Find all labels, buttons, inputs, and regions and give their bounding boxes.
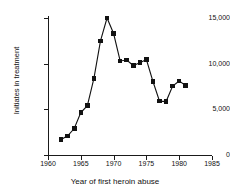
data-point-marker bbox=[124, 58, 129, 63]
data-point-marker bbox=[59, 137, 64, 142]
data-point-marker bbox=[65, 134, 70, 139]
data-point-marker bbox=[164, 99, 169, 104]
data-point-marker bbox=[177, 79, 182, 84]
data-point-marker bbox=[183, 83, 188, 88]
data-point-marker bbox=[111, 31, 116, 36]
data-point-marker bbox=[92, 76, 97, 81]
data-point-marker bbox=[85, 103, 90, 108]
series-line bbox=[0, 0, 230, 194]
data-point-marker bbox=[157, 99, 162, 104]
data-point-marker bbox=[72, 126, 77, 131]
chart-figure: 05,00010,00015,000 196019651970197519801… bbox=[0, 0, 230, 194]
data-point-marker bbox=[118, 59, 123, 64]
data-point-marker bbox=[170, 84, 175, 89]
data-point-marker bbox=[98, 39, 103, 44]
data-point-marker bbox=[144, 57, 149, 62]
data-point-marker bbox=[131, 63, 136, 68]
data-point-marker bbox=[79, 110, 84, 115]
data-point-marker bbox=[151, 79, 156, 84]
data-point-marker bbox=[105, 16, 110, 21]
data-point-marker bbox=[138, 60, 143, 65]
